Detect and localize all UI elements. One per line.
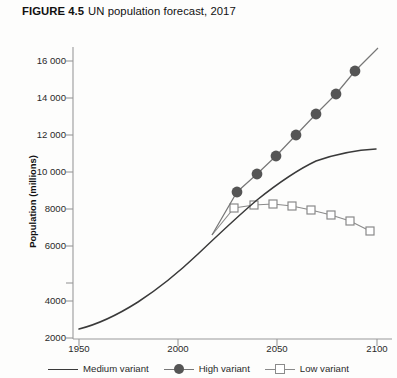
legend-entry-low-variant: Low variant bbox=[265, 364, 349, 374]
x-tick-2100: 2100 bbox=[347, 343, 397, 354]
y-tick-label: 2000 bbox=[45, 332, 66, 343]
x-axis-tick-labels: 1950 2000 2050 2100 bbox=[0, 343, 397, 357]
legend-line-icon bbox=[48, 364, 78, 374]
legend-label: High variant bbox=[199, 364, 250, 374]
legend-filled-circle-icon bbox=[164, 364, 194, 374]
y-tick-label: 4000 bbox=[45, 295, 66, 306]
y-axis-title: Population (millions) bbox=[27, 122, 38, 282]
y-tick-8000: 8000 bbox=[0, 203, 66, 215]
y-tick-label: 12 000 bbox=[37, 129, 66, 140]
legend-entry-high-variant: High variant bbox=[164, 364, 250, 374]
y-tick-label: 6000 bbox=[45, 240, 66, 251]
figure-container: FIGURE 4.5UN population forecast, 2017 bbox=[0, 0, 397, 378]
y-tick-label: 14 000 bbox=[37, 92, 66, 103]
y-tick-label: 16 000 bbox=[37, 55, 66, 66]
x-tick-2050: 2050 bbox=[247, 343, 307, 354]
y-tick-label: 8000 bbox=[45, 203, 66, 214]
y-tick-12000: 12 000 bbox=[0, 129, 66, 141]
chart-plot-area: Population (millions) 16 000 14 000 12 0… bbox=[0, 0, 397, 378]
x-tick-1950: 1950 bbox=[49, 343, 109, 354]
y-axis-ticks bbox=[66, 61, 73, 338]
legend-label: Medium variant bbox=[83, 364, 149, 374]
y-tick-16000: 16 000 bbox=[0, 55, 66, 67]
chart-legend: Medium variant High variant Low variant bbox=[0, 360, 397, 378]
series-markers-high-variant bbox=[232, 66, 361, 198]
y-tick-10000: 10 000 bbox=[0, 166, 66, 178]
legend-entry-medium-variant: Medium variant bbox=[48, 364, 149, 374]
legend-label: Low variant bbox=[300, 364, 349, 374]
y-tick-4000: 4000 bbox=[0, 295, 66, 307]
y-tick-6000: 6000 bbox=[0, 240, 66, 252]
y-tick-14000: 14 000 bbox=[0, 92, 66, 104]
y-tick-label: 10 000 bbox=[37, 166, 66, 177]
series-line-medium-variant bbox=[79, 149, 376, 329]
x-tick-2000: 2000 bbox=[148, 343, 208, 354]
legend-open-square-icon bbox=[265, 364, 295, 374]
